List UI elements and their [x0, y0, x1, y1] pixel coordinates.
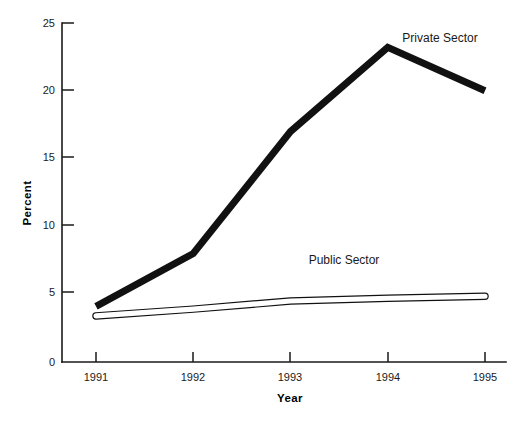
- y-axis-title: Percent: [21, 181, 33, 226]
- public-sector-label: Public Sector: [309, 253, 380, 267]
- x-axis-ticks: [96, 352, 485, 362]
- private-sector-label: Private Sector: [402, 31, 477, 45]
- x-tick-label-1995: 1995: [473, 371, 497, 383]
- x-tick-label-1993: 1993: [278, 371, 302, 383]
- y-tick-label-0: 0: [49, 356, 55, 368]
- y-tick-label-10: 10: [43, 219, 55, 231]
- line-chart-figure: 25 20 15 10 5 0 1991 1992 1993 1994 1995…: [0, 0, 520, 422]
- series-public-sector: [96, 296, 485, 316]
- y-axis-tick-labels: 25 20 15 10 5 0: [43, 17, 55, 368]
- x-tick-label-1991: 1991: [84, 371, 108, 383]
- x-axis-tick-labels: 1991 1992 1993 1994 1995: [84, 371, 497, 383]
- public-sector-line-fill: [96, 296, 485, 316]
- y-tick-label-25: 25: [43, 17, 55, 29]
- chart-container: 25 20 15 10 5 0 1991 1992 1993 1994 1995…: [0, 0, 520, 422]
- private-sector-line: [96, 47, 485, 306]
- y-tick-label-15: 15: [43, 151, 55, 163]
- y-tick-label-5: 5: [49, 286, 55, 298]
- x-tick-label-1994: 1994: [376, 371, 400, 383]
- x-tick-label-1992: 1992: [181, 371, 205, 383]
- y-axis-ticks: [62, 23, 74, 292]
- y-tick-label-20: 20: [43, 84, 55, 96]
- x-axis-title: Year: [277, 392, 303, 404]
